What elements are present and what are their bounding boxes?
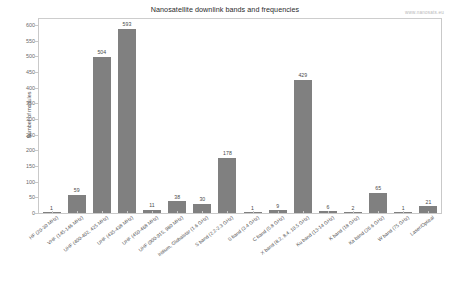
bar-value-label: 65 (366, 185, 391, 191)
bar-group: 1 (391, 19, 416, 213)
y-axis-tick-mark (34, 166, 38, 167)
x-axis-tick-label: UHF (900-915, 980 MHz) (138, 215, 184, 253)
bar-group: 21 (416, 19, 441, 213)
bar-value-label: 38 (165, 194, 190, 200)
bar[interactable] (118, 29, 136, 213)
x-axis-tick-label: UHF (400-402, 425 MHz) (63, 215, 109, 253)
y-axis-tick-label: 300 (0, 116, 38, 122)
bar-group: 59 (64, 19, 89, 213)
y-axis-tick-mark (34, 150, 38, 151)
x-axis-tick-mark (328, 211, 329, 214)
bar-group: 504 (89, 19, 114, 213)
bar-group: 9 (265, 19, 290, 213)
x-axis-tick-mark (102, 211, 103, 214)
bar-group: 178 (215, 19, 240, 213)
x-axis-tick-mark (152, 211, 153, 214)
x-axis: HF (20-30 MHz)VHF (145-146 MHz)UHF (400-… (39, 215, 441, 285)
bar-group: 1 (39, 19, 64, 213)
bar-value-label: 1 (39, 205, 64, 211)
y-axis-tick-label: 150 (0, 163, 38, 169)
y-axis-tick-mark (34, 182, 38, 183)
bar[interactable] (294, 80, 312, 213)
y-axis-tick-label: 400 (0, 85, 38, 91)
bars-container: 159504593113830178194296265121 (39, 19, 441, 213)
bar-group: 11 (140, 19, 165, 213)
y-axis-tick-mark (34, 41, 38, 42)
y-axis-tick-mark (34, 25, 38, 26)
bar-value-label: 6 (315, 204, 340, 210)
bar-value-label: 593 (114, 21, 139, 27)
bar-group: 6 (315, 19, 340, 213)
y-axis-tick-label: 350 (0, 100, 38, 106)
x-axis-tick-mark (428, 211, 429, 214)
bar[interactable] (218, 158, 236, 213)
bar-value-label: 178 (215, 150, 240, 156)
y-axis-tick-label: 600 (0, 22, 38, 28)
y-axis-tick-mark (34, 119, 38, 120)
bar-value-label: 429 (290, 72, 315, 78)
bar-group: 1 (240, 19, 265, 213)
bar-group: 65 (366, 19, 391, 213)
x-axis-tick-mark (77, 211, 78, 214)
bar-value-label: 1 (391, 205, 416, 211)
chart-title: Nanosatellite downlink bands and frequen… (0, 5, 450, 14)
bar-value-label: 9 (265, 203, 290, 209)
y-axis-tick-mark (34, 103, 38, 104)
bar-group: 38 (165, 19, 190, 213)
y-axis-tick-label: 200 (0, 147, 38, 153)
y-axis-tick-mark (34, 197, 38, 198)
bar-value-label: 30 (190, 196, 215, 202)
x-axis-tick-mark (127, 211, 128, 214)
x-axis-tick-mark (202, 211, 203, 214)
y-axis-tick-label: 50 (0, 194, 38, 200)
x-axis-tick-label: Iridium, Globalstar (1.6 GHz) (157, 215, 209, 257)
y-axis-tick-label: 450 (0, 69, 38, 75)
y-axis-tick-mark (34, 213, 38, 214)
bar-value-label: 21 (416, 199, 441, 205)
bar[interactable] (93, 57, 111, 213)
x-axis-tick-label: Laser/Optical (410, 215, 436, 237)
x-axis-tick-mark (278, 211, 279, 214)
bar-value-label: 2 (341, 205, 366, 211)
x-axis-tick-mark (378, 211, 379, 214)
x-axis-tick-mark (303, 211, 304, 214)
bar-value-label: 59 (64, 187, 89, 193)
y-axis-tick-label: 550 (0, 38, 38, 44)
x-axis-tick-mark (227, 211, 228, 214)
bar-group: 2 (341, 19, 366, 213)
x-axis-tick-mark (253, 211, 254, 214)
bar-value-label: 1 (240, 205, 265, 211)
x-axis-tick-mark (403, 211, 404, 214)
y-axis-tick-label: 100 (0, 179, 38, 185)
y-axis-tick-mark (34, 72, 38, 73)
y-axis-tick-mark (34, 135, 38, 136)
bar-value-label: 504 (89, 49, 114, 55)
bar-group: 429 (290, 19, 315, 213)
watermark-text: www.nanosats.eu (405, 10, 444, 15)
y-axis-tick-label: 250 (0, 132, 38, 138)
x-axis-tick-mark (177, 211, 178, 214)
bar-group: 593 (114, 19, 139, 213)
x-axis-tick-mark (52, 211, 53, 214)
bar-chart: Nanosatellite downlink bands and frequen… (0, 0, 450, 285)
x-axis-tick-label: X band (8.2, 8.4, 10.5 GHz) (260, 215, 310, 256)
y-axis-tick-mark (34, 88, 38, 89)
y-axis-tick-label: 0 (0, 210, 38, 216)
y-axis-tick-label: 500 (0, 53, 38, 59)
bar-group: 30 (190, 19, 215, 213)
y-axis-tick-mark (34, 56, 38, 57)
x-axis-tick-mark (353, 211, 354, 214)
bar-value-label: 11 (140, 202, 165, 208)
bar[interactable] (369, 193, 387, 213)
